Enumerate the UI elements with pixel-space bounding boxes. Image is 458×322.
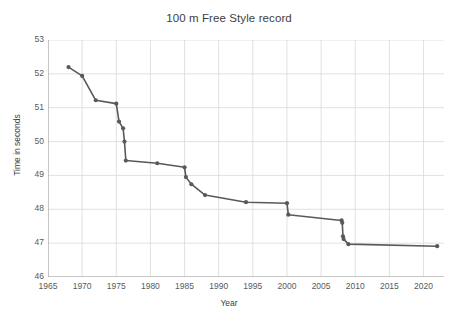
data-point-marker	[114, 102, 118, 106]
data-point-marker	[189, 182, 193, 186]
y-axis-tick-labels: 4647484950515253	[20, 0, 44, 322]
data-point-marker	[122, 139, 126, 143]
data-point-marker	[117, 120, 121, 124]
y-axis-tick-label: 51	[22, 103, 44, 112]
y-axis-tick-label: 48	[22, 204, 44, 213]
chart-container: 100 m Free Style record 4647484950515253…	[0, 0, 458, 322]
data-point-marker	[66, 65, 70, 69]
y-axis-tick-label: 52	[22, 69, 44, 78]
data-point-marker	[182, 165, 186, 169]
data-point-marker	[155, 161, 159, 165]
data-point-marker	[244, 200, 248, 204]
y-axis-tick-label: 50	[22, 137, 44, 146]
y-axis-tick-label: 53	[22, 35, 44, 44]
data-point-marker	[203, 193, 207, 197]
data-point-marker	[80, 74, 84, 78]
plot-area	[48, 40, 444, 277]
chart-plot-svg	[48, 40, 444, 277]
data-point-marker	[346, 242, 350, 246]
data-point-marker	[124, 158, 128, 162]
data-point-marker	[184, 175, 188, 179]
data-point-marker	[435, 244, 439, 248]
chart-title: 100 m Free Style record	[0, 12, 458, 24]
y-axis-tick-label: 49	[22, 170, 44, 179]
x-axis-tick-labels: 1965197019751980198519901995200020052010…	[0, 281, 458, 295]
y-axis-title: Time in seconds	[12, 90, 22, 200]
data-point-marker	[340, 221, 344, 225]
x-axis-tick-label: 2020	[404, 281, 444, 291]
data-point-marker	[342, 237, 346, 241]
data-point-marker	[94, 98, 98, 102]
data-point-marker	[121, 126, 125, 130]
data-point-marker	[285, 201, 289, 205]
y-axis-tick-label: 46	[22, 272, 44, 281]
x-axis-title: Year	[0, 298, 458, 308]
y-axis-tick-label: 47	[22, 238, 44, 247]
data-point-marker	[286, 213, 290, 217]
